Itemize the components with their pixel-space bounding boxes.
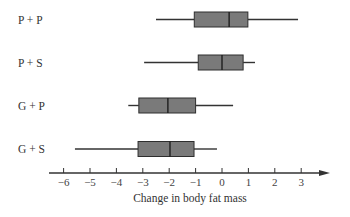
tick-label: 2 <box>272 176 278 188</box>
box-row: G + P <box>18 98 233 113</box>
axis-arrow-icon <box>319 170 330 176</box>
box-row: P + P <box>18 12 298 27</box>
category-label: P + S <box>18 57 43 69</box>
tick-label: 0 <box>219 176 225 188</box>
iqr-box <box>194 12 248 27</box>
boxplot-chart: P + PP + SG + PG + S −6−5−4−3−2−10123 Ch… <box>0 0 350 217</box>
box-rows: P + PP + SG + PG + S <box>18 12 298 157</box>
box-row: G + S <box>18 142 217 157</box>
category-label: G + S <box>18 143 45 155</box>
tick-label: −3 <box>137 176 149 188</box>
tick-label: −6 <box>58 176 70 188</box>
tick-label: −5 <box>84 176 96 188</box>
box-row: P + S <box>18 55 255 70</box>
x-axis-label: Change in body fat mass <box>133 192 247 205</box>
x-axis: −6−5−4−3−2−10123 <box>49 168 330 188</box>
tick-label: −1 <box>190 176 202 188</box>
iqr-box <box>198 55 243 70</box>
tick-label: 3 <box>298 176 304 188</box>
iqr-box <box>138 142 194 157</box>
tick-label: −4 <box>111 176 123 188</box>
tick-label: 1 <box>246 176 252 188</box>
category-label: G + P <box>18 100 45 112</box>
tick-label: −2 <box>163 176 175 188</box>
category-label: P + P <box>18 14 43 26</box>
